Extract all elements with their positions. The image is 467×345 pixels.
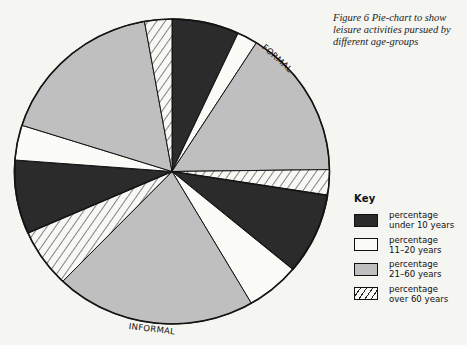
legend-label: percentage 11–20 years: [389, 235, 442, 255]
legend-title: Key: [354, 193, 467, 204]
swatch-white: [354, 238, 378, 251]
swatch-gray: [354, 263, 378, 276]
swatch-hatched: [354, 287, 378, 300]
legend-item-over-60: percentage over 60 years: [354, 282, 467, 307]
legend-label: percentage over 60 years: [389, 284, 448, 304]
legend-item-11-20: percentage 11–20 years: [354, 233, 467, 258]
legend-label: percentage under 10 years: [389, 210, 454, 230]
legend-item-21-60: percentage 21–60 years: [354, 257, 467, 282]
legend-label: percentage 21–60 years: [389, 259, 442, 279]
legend: Key percentage under 10 years percentage…: [354, 193, 467, 306]
figure-caption: Figure 6 Pie-chart to show leisure activ…: [333, 12, 467, 48]
pie-chart: FORMALINFORMAL: [0, 0, 340, 345]
legend-item-under-10: percentage under 10 years: [354, 208, 467, 233]
swatch-dark: [354, 214, 378, 227]
